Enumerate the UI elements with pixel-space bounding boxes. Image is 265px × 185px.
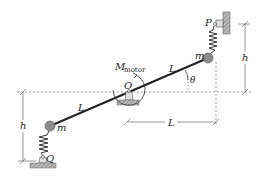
label-mass-bottom: m	[57, 122, 66, 133]
label-l-horizontal: L	[167, 117, 175, 128]
label-o: O	[124, 80, 132, 91]
pin-q	[42, 156, 45, 159]
label-theta: θ	[190, 75, 196, 85]
theta-arc	[185, 70, 188, 80]
label-mass-top: m	[195, 50, 204, 61]
pivot-support	[125, 92, 133, 100]
label-h-right: h	[242, 52, 248, 63]
label-l-upper: L	[168, 63, 176, 74]
label-l-lower: L	[77, 102, 85, 113]
top-mass	[203, 53, 213, 63]
label-p: P	[204, 17, 212, 28]
top-wall	[223, 12, 230, 34]
label-h-left: h	[20, 120, 26, 131]
bottom-mass	[45, 121, 55, 131]
top-bracket	[216, 20, 223, 27]
pin-p	[214, 23, 217, 26]
mechanism-diagram: P m m Q O L L θ h h L M motor	[0, 0, 265, 185]
label-q: Q	[46, 153, 54, 164]
label-motor-sub: motor	[124, 66, 146, 74]
